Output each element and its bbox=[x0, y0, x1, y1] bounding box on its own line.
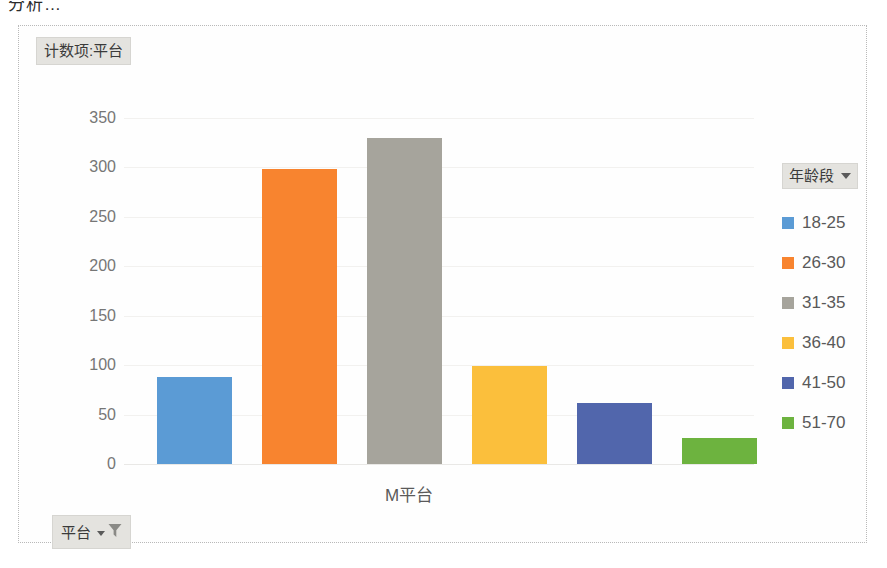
y-axis-tick-label: 200 bbox=[64, 257, 116, 275]
bar-36-40[interactable] bbox=[472, 366, 548, 464]
legend-item[interactable]: 31-35 bbox=[782, 283, 872, 323]
legend-item-label: 41-50 bbox=[802, 373, 845, 393]
y-axis-tick-label: 0 bbox=[64, 455, 116, 473]
legend-swatch-icon bbox=[782, 377, 794, 389]
legend-items: 18-2526-3031-3536-4041-5051-70 bbox=[782, 203, 872, 443]
legend: 年龄段 18-2526-3031-3536-4041-5051-70 bbox=[782, 163, 872, 443]
legend-swatch-icon bbox=[782, 417, 794, 429]
legend-swatch-icon bbox=[782, 257, 794, 269]
bar-31-35[interactable] bbox=[367, 138, 443, 464]
plot-area: 350300250200150100500 bbox=[64, 91, 754, 466]
y-axis-tick-label: 50 bbox=[64, 406, 116, 424]
y-axis-tick-label: 100 bbox=[64, 356, 116, 374]
chart-title-field-button[interactable]: 计数项:平台 bbox=[36, 37, 131, 65]
legend-swatch-icon bbox=[782, 217, 794, 229]
legend-swatch-icon bbox=[782, 337, 794, 349]
legend-field-button[interactable]: 年龄段 bbox=[782, 163, 858, 189]
legend-item-label: 26-30 bbox=[802, 253, 845, 273]
y-axis-tick-label: 350 bbox=[64, 109, 116, 127]
y-axis-tick-label: 250 bbox=[64, 208, 116, 226]
pivot-chart-frame[interactable]: 计数项:平台 350300250200150100500 M平台 年龄段 18-… bbox=[18, 25, 867, 543]
bar-41-50[interactable] bbox=[577, 403, 653, 464]
y-axis-tick-label: 300 bbox=[64, 158, 116, 176]
bar-18-25[interactable] bbox=[157, 377, 233, 464]
legend-item[interactable]: 41-50 bbox=[782, 363, 872, 403]
legend-item[interactable]: 26-30 bbox=[782, 243, 872, 283]
legend-item-label: 51-70 bbox=[802, 413, 845, 433]
legend-item-label: 18-25 bbox=[802, 213, 845, 233]
platform-filter-label: 平台 bbox=[61, 521, 91, 542]
filter-funnel-icon[interactable] bbox=[108, 523, 122, 541]
chevron-down-icon[interactable] bbox=[97, 531, 105, 536]
platform-filter-button[interactable]: 平台 bbox=[52, 515, 131, 549]
x-axis-category-label: M平台 bbox=[64, 481, 754, 506]
legend-item[interactable]: 18-25 bbox=[782, 203, 872, 243]
chart-title-label: 计数项:平台 bbox=[44, 43, 123, 58]
bar-series bbox=[124, 91, 754, 466]
bar-51-70[interactable] bbox=[682, 438, 758, 464]
legend-item-label: 31-35 bbox=[802, 293, 845, 313]
legend-item[interactable]: 51-70 bbox=[782, 403, 872, 443]
y-axis-tick-label: 150 bbox=[64, 307, 116, 325]
chevron-down-icon[interactable] bbox=[841, 173, 851, 179]
legend-field-label: 年龄段 bbox=[789, 168, 834, 183]
legend-item-label: 36-40 bbox=[802, 333, 845, 353]
cut-off-top-text: 分析… bbox=[8, 0, 62, 15]
legend-swatch-icon bbox=[782, 297, 794, 309]
legend-item[interactable]: 36-40 bbox=[782, 323, 872, 363]
bar-26-30[interactable] bbox=[262, 169, 338, 464]
